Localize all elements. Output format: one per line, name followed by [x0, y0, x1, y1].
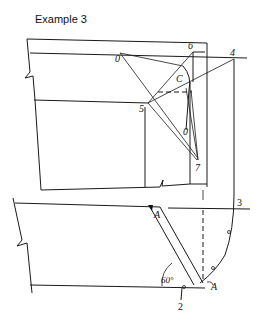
- label-point-o-lower: 0: [183, 126, 188, 137]
- label-point-4: 4: [230, 47, 235, 58]
- label-point-5: 5: [139, 103, 144, 114]
- label-point-7: 7: [195, 162, 201, 173]
- label-point-a-bottom: A: [210, 281, 218, 292]
- label-point-3: 3: [237, 197, 242, 208]
- label-point-2: 2: [178, 301, 183, 312]
- pattern-diagram: 0 6 4 C 5 0 7 3 A A 2 60°: [0, 0, 263, 330]
- label-point-a-top: A: [153, 209, 161, 220]
- label-point-6: 6: [188, 40, 193, 51]
- label-angle-60: 60°: [161, 275, 174, 285]
- label-point-c: C: [176, 73, 183, 84]
- label-point-o-top: 0: [115, 53, 120, 64]
- upper-pattern-block: [25, 39, 247, 200]
